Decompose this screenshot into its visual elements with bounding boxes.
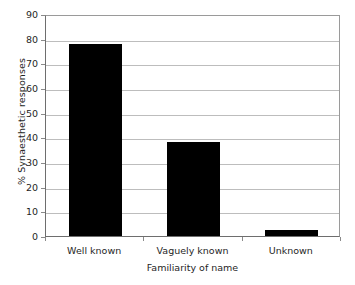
x-tick-mark (340, 237, 341, 241)
y-tick-label: 60 (12, 84, 38, 94)
y-tick-mark (41, 138, 45, 139)
bar-chart-figure: % Synaesthetic responses 908070605040302… (0, 0, 355, 285)
y-tick-mark (41, 15, 45, 16)
y-tick-label: 10 (12, 207, 38, 217)
y-tick-mark (41, 188, 45, 189)
x-category-label: Well known (45, 245, 143, 256)
y-tick-mark (41, 89, 45, 90)
y-tick-label: 50 (12, 109, 38, 119)
bar (69, 44, 122, 236)
y-tick-label: 20 (12, 183, 38, 193)
y-tick-mark (41, 40, 45, 41)
x-category-label: Vaguely known (143, 245, 241, 256)
y-tick-label: 90 (12, 10, 38, 20)
y-tick-label: 70 (12, 59, 38, 69)
y-tick-mark (41, 114, 45, 115)
gridline (46, 41, 339, 42)
x-tick-mark (242, 237, 243, 241)
x-tick-mark (143, 237, 144, 241)
x-axis-title: Familiarity of name (45, 262, 340, 273)
y-tick-label: 40 (12, 133, 38, 143)
y-tick-label: 80 (12, 35, 38, 45)
y-axis-ticks: 9080706050403020100 (12, 15, 38, 237)
y-tick-mark (41, 64, 45, 65)
y-tick-label: 30 (12, 158, 38, 168)
x-category-label: Unknown (242, 245, 340, 256)
y-tick-label: 0 (12, 232, 38, 242)
bar (167, 142, 220, 236)
bar (265, 230, 318, 236)
y-tick-mark (41, 212, 45, 213)
plot-area (45, 15, 340, 237)
y-tick-mark (41, 163, 45, 164)
x-tick-mark (45, 237, 46, 241)
